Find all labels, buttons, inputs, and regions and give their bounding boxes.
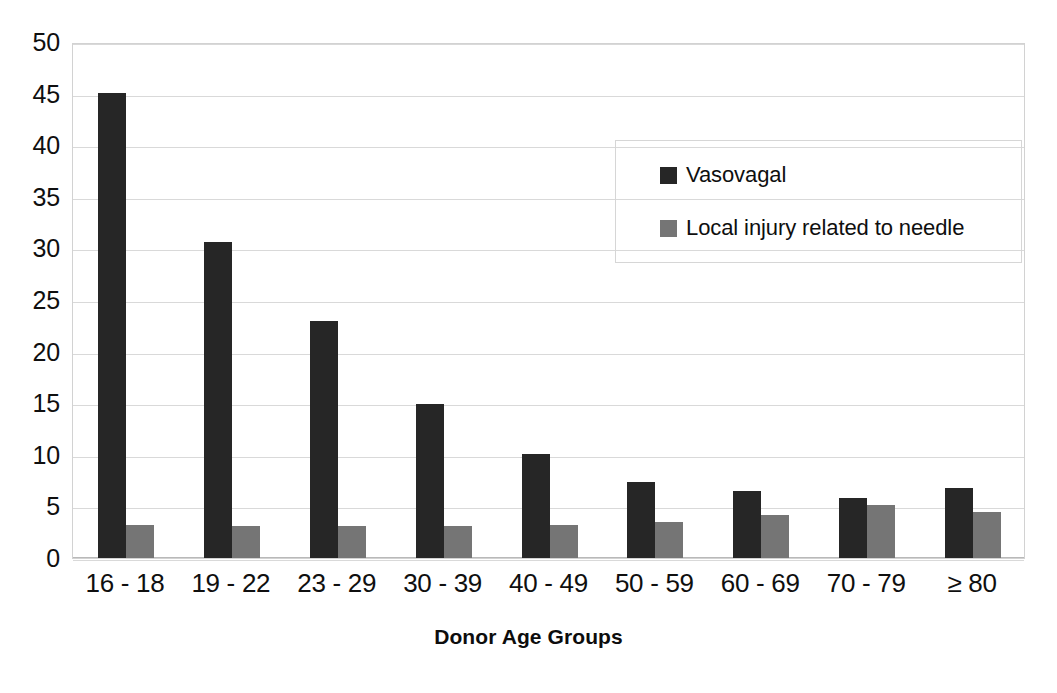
y-axis-tick-label: 10 — [8, 443, 60, 468]
bar-0 — [204, 242, 232, 558]
bar-1 — [126, 525, 154, 558]
bar-1 — [232, 526, 260, 558]
bar-group — [522, 44, 578, 558]
y-axis-tick-label: 30 — [8, 236, 60, 261]
legend-item-local-injury: Local injury related to needle — [660, 214, 964, 242]
x-axis-tick-label: 30 - 39 — [390, 568, 496, 598]
x-axis-tick-label: 19 - 22 — [178, 568, 284, 598]
legend-item-vasovagal: Vasovagal — [660, 161, 786, 189]
x-axis-tick-label: 60 - 69 — [707, 568, 813, 598]
bar-0 — [733, 491, 761, 558]
x-axis-tick-label: 70 - 79 — [813, 568, 919, 598]
bar-1 — [550, 525, 578, 558]
bar-group — [733, 44, 789, 558]
x-axis-title: Donor Age Groups — [0, 625, 1057, 649]
bar-group — [98, 44, 154, 558]
bar-group — [204, 44, 260, 558]
legend-item-label: Local injury related to needle — [686, 216, 964, 240]
bars-layer — [73, 44, 1024, 558]
bar-1 — [338, 526, 366, 558]
bar-1 — [444, 526, 472, 558]
bar-group — [310, 44, 366, 558]
bar-1 — [761, 515, 789, 558]
bar-group — [839, 44, 895, 558]
y-axis-tick-label: 5 — [8, 494, 60, 519]
bar-0 — [839, 498, 867, 558]
y-axis-tick-label: 15 — [8, 391, 60, 416]
legend-item-label: Vasovagal — [686, 163, 786, 187]
bar-0 — [522, 454, 550, 558]
plot-area — [72, 43, 1025, 559]
x-axis-tick-label: 40 - 49 — [496, 568, 602, 598]
y-axis-tick-label: 35 — [8, 185, 60, 210]
gridline — [73, 560, 1024, 561]
bar-0 — [945, 488, 973, 558]
y-axis-tick-label: 20 — [8, 340, 60, 365]
y-axis-tick-label: 40 — [8, 133, 60, 158]
bar-chart: 05101520253035404550 16 - 1819 - 2223 - … — [0, 0, 1057, 693]
bar-0 — [310, 321, 338, 558]
bar-group — [945, 44, 1001, 558]
chart-legend: Vasovagal Local injury related to needle — [615, 140, 1022, 263]
bar-0 — [98, 93, 126, 558]
bar-group — [627, 44, 683, 558]
x-axis-tick-label: 23 - 29 — [284, 568, 390, 598]
bar-group — [416, 44, 472, 558]
x-axis-tick-label: ≥ 80 — [919, 568, 1025, 598]
legend-swatch-icon — [660, 167, 677, 184]
legend-swatch-icon — [660, 220, 677, 237]
bar-1 — [867, 505, 895, 558]
x-axis-tick-label: 16 - 18 — [72, 568, 178, 598]
bar-1 — [973, 512, 1001, 558]
bar-1 — [655, 522, 683, 558]
y-axis-tick-label: 0 — [8, 546, 60, 571]
y-axis-tick-label: 50 — [8, 30, 60, 55]
bar-0 — [416, 404, 444, 558]
y-axis-tick-label: 25 — [8, 288, 60, 313]
bar-0 — [627, 482, 655, 558]
x-axis-tick-label: 50 - 59 — [601, 568, 707, 598]
y-axis-tick-label: 45 — [8, 82, 60, 107]
